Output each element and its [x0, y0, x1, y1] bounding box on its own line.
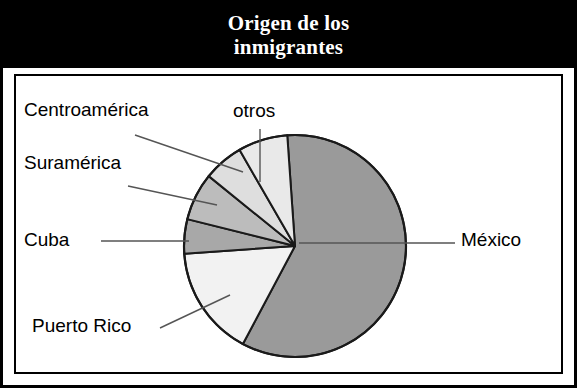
pie-slices [184, 135, 406, 357]
chart-figure: Origen de los inmigrantes Centroamérica … [0, 0, 577, 388]
slice-label-centroamerica: Centroamérica [24, 99, 149, 121]
slice-label-mexico: México [461, 229, 521, 251]
slice-label-puerto-rico: Puerto Rico [32, 315, 131, 337]
slice-label-otros: otros [233, 100, 275, 122]
slice-label-suramerica: Suramérica [24, 152, 121, 174]
leader-line-centroamerica [135, 135, 243, 172]
slice-label-cuba: Cuba [24, 229, 69, 251]
